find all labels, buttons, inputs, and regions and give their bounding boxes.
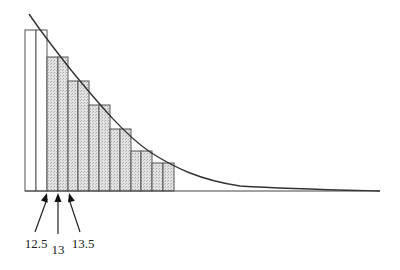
pointer-arrows xyxy=(35,193,80,234)
shaded-bar-4 xyxy=(68,81,78,191)
shaded-bar-5 xyxy=(78,81,89,191)
histogram-bars xyxy=(25,30,174,191)
shaded-bar-2 xyxy=(47,57,58,191)
arrow-icon-1 xyxy=(55,193,62,234)
shaded-bar-11 xyxy=(141,151,152,191)
shaded-bar-9 xyxy=(120,129,131,191)
shaded-bar-12 xyxy=(152,163,163,191)
unshaded-bar-0 xyxy=(25,30,36,191)
arrow-icon-0 xyxy=(35,193,48,232)
shaded-bar-10 xyxy=(131,151,141,191)
histogram-diagram xyxy=(0,0,400,270)
boundary-label: 13 xyxy=(52,242,65,258)
shaded-bar-6 xyxy=(89,105,99,191)
boundary-label: 12.5 xyxy=(25,236,48,252)
shaded-bar-13 xyxy=(163,163,174,191)
shaded-bar-7 xyxy=(99,105,110,191)
arrow-icon-2 xyxy=(68,193,80,232)
unshaded-bar-1 xyxy=(36,30,47,191)
boundary-label: 13.5 xyxy=(72,236,95,252)
shaded-bar-3 xyxy=(58,57,68,191)
shaded-bar-8 xyxy=(110,129,120,191)
